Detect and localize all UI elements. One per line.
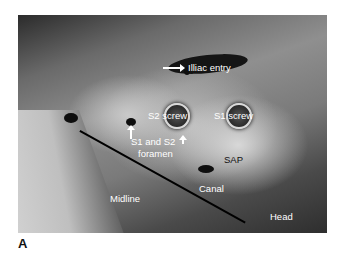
label-midline: Midline xyxy=(110,193,140,204)
label-s1-screw: S1 screw xyxy=(214,110,253,121)
label-foramen-line2: foramen xyxy=(138,148,173,159)
label-foramen-line1: S1 and S2 xyxy=(131,136,175,147)
arrow-right-icon xyxy=(163,67,181,69)
label-head: Head xyxy=(270,211,293,222)
panel-label: A xyxy=(18,236,27,251)
label-sap: SAP xyxy=(224,154,243,165)
label-iliac-entry: Illiac entry xyxy=(188,62,231,73)
surgical-photo: Illiac entry S2 screw S1 screw S1 and S2… xyxy=(18,15,327,233)
arrow-up-icon xyxy=(182,139,184,144)
label-s2-screw: S2 screw xyxy=(148,110,187,121)
label-canal: Canal xyxy=(199,183,224,194)
tissue-band xyxy=(18,110,137,233)
cavity-left xyxy=(64,113,78,123)
canal-hole xyxy=(198,165,214,173)
